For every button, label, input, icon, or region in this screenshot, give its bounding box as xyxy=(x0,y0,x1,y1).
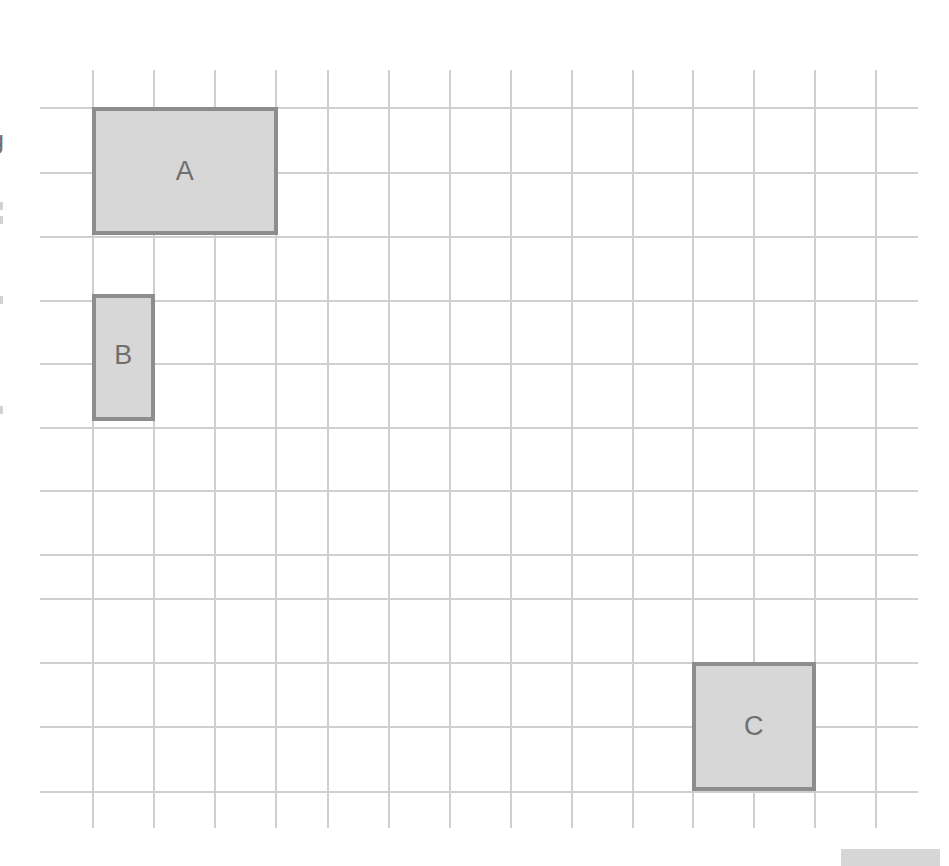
grid-line-vertical xyxy=(571,70,573,828)
worksheet-canvas: A B C g xyxy=(0,0,949,866)
grid-line-horizontal xyxy=(40,427,918,429)
grid-line-vertical xyxy=(510,70,512,828)
grid-line-horizontal xyxy=(40,598,918,600)
grid-line-horizontal xyxy=(40,554,918,556)
grid-line-horizontal xyxy=(40,363,918,365)
margin-fleck xyxy=(0,216,3,224)
grid-line-vertical xyxy=(449,70,451,828)
grid-line-vertical xyxy=(875,70,877,828)
grid-line-horizontal xyxy=(40,490,918,492)
grid-line-horizontal xyxy=(40,236,918,238)
grid-line-horizontal xyxy=(40,300,918,302)
rectangle-c-label: C xyxy=(744,713,764,740)
rectangle-c[interactable]: C xyxy=(692,662,816,791)
margin-fleck xyxy=(0,202,3,210)
rectangle-b-label: B xyxy=(114,342,133,369)
grid-line-vertical xyxy=(327,70,329,828)
margin-fleck xyxy=(0,296,3,304)
rectangle-a-label: A xyxy=(176,158,195,185)
grid-line-horizontal xyxy=(40,791,918,793)
margin-fleck xyxy=(0,406,3,414)
clipped-margin-glyph: g xyxy=(0,128,4,153)
grid-line-vertical xyxy=(632,70,634,828)
rectangle-a[interactable]: A xyxy=(92,107,278,235)
corner-bar xyxy=(841,849,940,866)
grid-line-vertical xyxy=(388,70,390,828)
rectangle-b[interactable]: B xyxy=(92,294,155,421)
